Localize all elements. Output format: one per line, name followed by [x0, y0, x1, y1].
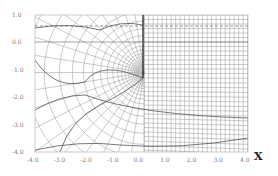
x-tick-label: 3.0	[213, 156, 223, 163]
x-tick-label: 1.0	[160, 156, 170, 163]
x-axis-label: X	[254, 150, 263, 163]
x-tick-label: -3.0	[54, 156, 66, 163]
y-tick-label: -2.0	[12, 93, 24, 100]
x-tick-label: -1.0	[107, 156, 119, 163]
y-tick-label: -3.0	[12, 121, 24, 128]
x-tick-label: 4.0	[240, 156, 250, 163]
y-tick-label: -1.0	[12, 66, 24, 73]
grid-lines	[0, 0, 248, 176]
x-tick-label: 0.0	[134, 156, 144, 163]
conformal-grid-plot	[0, 0, 278, 176]
x-tick-label: 2.0	[187, 156, 197, 163]
y-tick-label: 1.0	[12, 11, 22, 18]
y-tick-label: 0.0	[12, 38, 22, 45]
x-tick-label: -4.0	[27, 156, 39, 163]
x-tick-label: -2.0	[80, 156, 92, 163]
y-tick-label: -4.0	[12, 148, 24, 155]
